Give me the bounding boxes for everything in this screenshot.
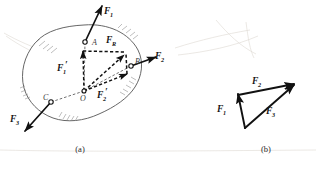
mechanics-figure: A B C O F 1 F 2 F 3 F 1 ′ F <box>0 0 316 174</box>
svg-text:2: 2 <box>257 81 261 88</box>
svg-text:′: ′ <box>105 87 108 97</box>
point-label-C: C <box>43 93 49 102</box>
caption-b: (b) <box>261 144 271 154</box>
panel-b-group: F 1 F 2 F 3 (b) <box>216 76 294 154</box>
caption-a: (a) <box>75 144 85 154</box>
force-label-F2-b: F 2 <box>251 76 261 88</box>
svg-text:2: 2 <box>160 56 164 63</box>
figure-canvas: A B C O F 1 F 2 F 3 F 1 ′ F <box>0 0 316 174</box>
svg-text:3: 3 <box>15 119 19 126</box>
svg-text:1: 1 <box>110 11 113 18</box>
force-label-F3-b: F 3 <box>265 106 275 118</box>
point-marker-O <box>82 89 86 93</box>
svg-text:′: ′ <box>65 60 68 70</box>
point-label-B: B <box>135 57 140 66</box>
rigid-body-outline <box>22 25 141 121</box>
point-label-O: O <box>80 94 86 103</box>
svg-text:1: 1 <box>223 109 226 116</box>
point-label-A: A <box>91 38 97 47</box>
triangle-side-F1 <box>238 94 245 128</box>
force-label-F3-a: F 3 <box>9 114 19 126</box>
force-label-F2-a: F 2 <box>154 51 164 63</box>
point-marker-B <box>129 64 133 68</box>
force-label-F1-a: F 1 <box>103 6 113 18</box>
svg-text:R: R <box>111 40 116 47</box>
force-label-F1-b: F 1 <box>216 104 226 116</box>
panel-a-group: A B C O F 1 F 2 F 3 F 1 ′ F <box>9 6 164 154</box>
svg-text:3: 3 <box>271 111 275 118</box>
point-marker-C <box>49 100 53 104</box>
point-marker-A <box>83 40 87 44</box>
